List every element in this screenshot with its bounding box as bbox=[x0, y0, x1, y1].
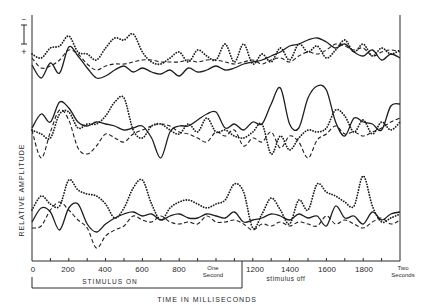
tick-label-1200: 1200 bbox=[246, 265, 264, 274]
tick-label-600: 600 bbox=[135, 265, 149, 274]
tick-label-1400: 1400 bbox=[281, 265, 299, 274]
y-axis-label: RELATIVE AMPLITUDE bbox=[18, 144, 25, 237]
figure: − + RELATIVE AMPLITUDE 0 200 400 600 800… bbox=[0, 0, 431, 305]
tick-label-200: 200 bbox=[61, 265, 75, 274]
tick-label-1600: 1600 bbox=[318, 265, 336, 274]
tick-label-1800: 1800 bbox=[355, 265, 373, 274]
scale-bar-plus: + bbox=[21, 47, 26, 57]
tick-label-400: 400 bbox=[98, 265, 112, 274]
stimulus-off-label: stimulus off bbox=[267, 275, 306, 282]
two-seconds-label-line2: Seconds bbox=[391, 272, 414, 278]
two-seconds-label: Two bbox=[397, 265, 409, 271]
one-second-label-line2: Second bbox=[203, 272, 223, 278]
tick-label-800: 800 bbox=[172, 265, 186, 274]
stimulus-on-label: STIMULUS ON bbox=[82, 278, 137, 285]
scale-bar-minus: − bbox=[22, 15, 27, 24]
one-second-label: One bbox=[207, 265, 219, 271]
x-axis-label: TIME IN MILLISECONDS bbox=[157, 296, 257, 303]
tick-label-0: 0 bbox=[31, 265, 36, 274]
